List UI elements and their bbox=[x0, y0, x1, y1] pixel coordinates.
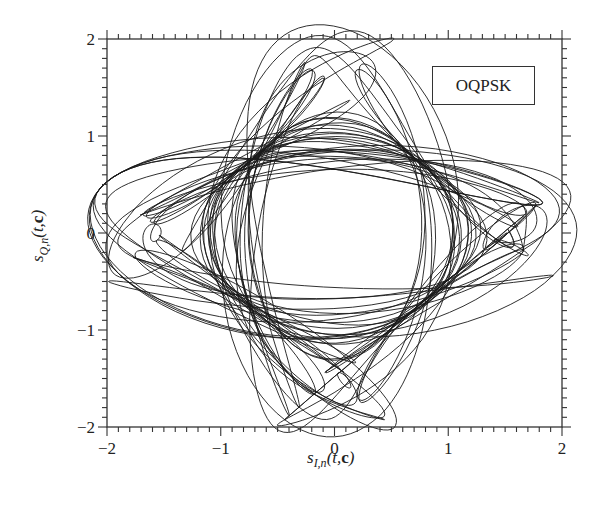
y-axis-title-symbol: s bbox=[28, 255, 47, 262]
y-tick-label: 2 bbox=[87, 31, 96, 48]
figure: −2 −1 0 1 2 2 1 0 −1 −2 sI,n(t,c) sQ,n(t… bbox=[0, 0, 602, 529]
y-tick-label: −1 bbox=[77, 322, 95, 339]
y-axis-title-args: (t, bbox=[28, 223, 47, 238]
y-tick-label: −2 bbox=[77, 419, 95, 436]
legend: OQPSK bbox=[432, 66, 535, 105]
x-axis-title-symbol: s bbox=[307, 448, 314, 467]
x-axis-title-subscript: I,n bbox=[314, 456, 327, 470]
x-tick-label: −2 bbox=[98, 440, 116, 457]
y-tick-label: 0 bbox=[87, 225, 96, 242]
y-tick-label: 1 bbox=[87, 128, 96, 145]
x-tick-label: −1 bbox=[212, 440, 230, 457]
x-axis-title-bold: c bbox=[341, 448, 349, 467]
y-axis-title-bold: c bbox=[28, 216, 47, 224]
legend-label: OQPSK bbox=[456, 76, 512, 96]
x-axis-title-close: ) bbox=[349, 448, 355, 467]
y-axis-title: sQ,n(t,c) bbox=[28, 210, 51, 262]
x-axis-title-args: (t, bbox=[327, 448, 342, 467]
x-axis-title: sI,n(t,c) bbox=[307, 448, 354, 471]
y-axis-title-subscript: Q,n bbox=[37, 238, 51, 256]
x-tick-label: 2 bbox=[558, 440, 567, 457]
y-axis-title-close: ) bbox=[28, 210, 47, 216]
x-tick-label: 1 bbox=[444, 440, 453, 457]
